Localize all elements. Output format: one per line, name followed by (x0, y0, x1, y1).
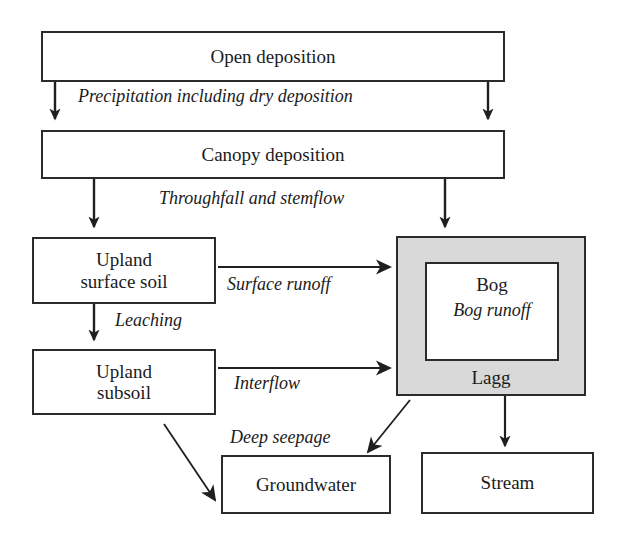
box-upland-subsoil-label-line2: subsoil (97, 382, 151, 403)
flow-diagram: Open deposition Canopy deposition Upland… (0, 0, 623, 538)
box-open-deposition[interactable]: Open deposition (41, 31, 505, 82)
box-upland-subsoil-label-line1: Upland (96, 361, 152, 382)
flow-label-surface-runoff: Surface runoff (227, 274, 331, 295)
box-bog[interactable]: Bog Bog runoff (425, 262, 559, 361)
box-upland-subsoil[interactable]: Upland subsoil (32, 349, 216, 415)
box-upland-surface-soil[interactable]: Upland surface soil (32, 237, 216, 304)
flow-label-precipitation: Precipitation including dry deposition (78, 86, 353, 107)
arrow-deep-seepage (164, 424, 215, 500)
box-stream-label: Stream (481, 472, 535, 493)
box-upland-surface-soil-label-line2: surface soil (80, 271, 167, 292)
box-open-deposition-label: Open deposition (210, 46, 335, 67)
flow-label-interflow: Interflow (234, 373, 300, 394)
flow-label-throughfall: Throughfall and stemflow (159, 188, 344, 209)
box-lagg-label: Lagg (471, 367, 510, 388)
box-groundwater[interactable]: Groundwater (221, 455, 391, 514)
arrow-lagg-to-groundwater (368, 400, 410, 452)
flow-label-bog-runoff: Bog runoff (427, 300, 557, 321)
flow-label-deep-seepage: Deep seepage (230, 427, 330, 448)
box-canopy-deposition[interactable]: Canopy deposition (41, 130, 505, 179)
box-bog-label: Bog (427, 274, 557, 296)
box-stream[interactable]: Stream (421, 452, 594, 514)
box-groundwater-label: Groundwater (256, 474, 356, 495)
box-upland-surface-soil-label-line1: Upland (96, 249, 152, 270)
box-canopy-deposition-label: Canopy deposition (201, 144, 344, 165)
flow-label-leaching: Leaching (115, 310, 182, 331)
